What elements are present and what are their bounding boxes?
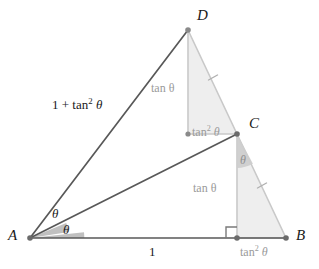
figure-root: A B C D 1 + tan2 θ 1 tan θ tan2 θ tan θ … [0, 0, 319, 269]
vertex-dot-D [185, 27, 191, 33]
vertex-dot-B [283, 235, 289, 241]
vertex-dot-C [234, 131, 240, 137]
angle-arc-C [237, 134, 253, 168]
angle-wedges [30, 134, 253, 238]
vertex-dot-E [185, 131, 190, 136]
segment-AC [30, 134, 237, 238]
vertex-dot-F [234, 235, 240, 241]
segment-AD [30, 30, 188, 238]
vertex-dot-A [27, 235, 33, 241]
geometry-canvas [0, 0, 319, 269]
